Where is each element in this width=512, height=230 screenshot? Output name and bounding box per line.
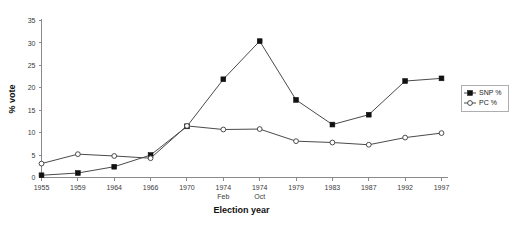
data-point-marker: [257, 127, 262, 132]
data-point-marker: [294, 139, 299, 144]
y-tick-label: 25: [28, 62, 36, 69]
data-point-marker: [403, 135, 408, 140]
y-tick-label: 5: [32, 152, 36, 159]
axis-titles: Election year% vote: [7, 84, 270, 215]
legend-marker-filled-square-icon: [468, 91, 473, 96]
x-axis-title: Election year: [213, 205, 270, 215]
y-tick-label: 30: [28, 40, 36, 47]
data-point-marker: [39, 161, 44, 166]
x-tick-label: 1979: [288, 184, 304, 191]
data-point-marker: [39, 173, 44, 178]
x-tick-label: 1955: [34, 184, 50, 191]
y-axis-title: % vote: [7, 84, 17, 113]
x-tick-label: 1959: [70, 184, 86, 191]
y-tick-label: 15: [28, 107, 36, 114]
data-point-marker: [112, 154, 117, 159]
series-line: [42, 126, 442, 164]
y-tick-label: 35: [28, 17, 36, 24]
legend-label: PC %: [479, 99, 497, 106]
chart-container: 05101520253035 195519591964196619701974F…: [0, 0, 512, 230]
x-tick-label: 1992: [397, 184, 413, 191]
data-point-marker: [366, 112, 371, 117]
data-point-marker: [75, 171, 80, 176]
data-point-marker: [366, 142, 371, 147]
legend-label: SNP %: [479, 89, 501, 96]
chart-legend: SNP %PC %: [461, 85, 508, 111]
x-tick-label: 1974: [216, 184, 232, 191]
x-tick-label: 1964: [106, 184, 122, 191]
data-series: [39, 39, 444, 178]
y-tick-label: 10: [28, 129, 36, 136]
x-tick-label-sub: Oct: [254, 193, 265, 200]
data-point-marker: [185, 124, 190, 129]
data-point-marker: [221, 77, 226, 82]
data-point-marker: [221, 127, 226, 132]
x-tick-label: 1966: [143, 184, 159, 191]
x-tick-label: 1983: [325, 184, 341, 191]
x-axis-ticks: 195519591964196619701974Feb1974Oct197919…: [34, 178, 450, 200]
legend-marker-open-circle-icon: [468, 101, 473, 106]
y-tick-label: 0: [32, 174, 36, 181]
data-point-marker: [330, 122, 335, 127]
series-pc: [39, 124, 444, 166]
y-axis-ticks: 05101520253035: [28, 17, 42, 181]
x-tick-label: 1997: [434, 184, 450, 191]
x-tick-label: 1970: [179, 184, 195, 191]
line-chart: 05101520253035 195519591964196619701974F…: [0, 0, 512, 230]
data-point-marker: [439, 131, 444, 136]
data-point-marker: [403, 79, 408, 84]
x-tick-label: 1974: [252, 184, 268, 191]
data-point-marker: [75, 152, 80, 157]
data-point-marker: [148, 156, 153, 161]
data-point-marker: [294, 97, 299, 102]
y-tick-label: 20: [28, 84, 36, 91]
series-snp: [39, 39, 444, 178]
data-point-marker: [257, 39, 262, 44]
data-point-marker: [439, 76, 444, 81]
x-tick-label-sub: Feb: [217, 193, 229, 200]
data-point-marker: [330, 140, 335, 145]
data-point-marker: [112, 164, 117, 169]
x-tick-label: 1987: [361, 184, 377, 191]
